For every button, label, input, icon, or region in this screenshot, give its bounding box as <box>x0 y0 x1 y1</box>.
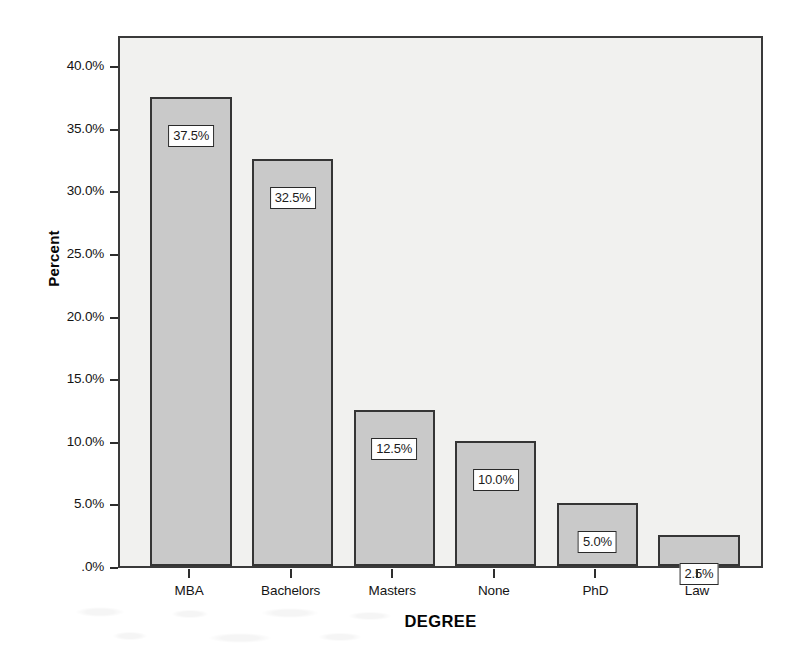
bar: 10.0% <box>455 441 536 566</box>
y-tick-label: 25.0% <box>0 246 104 261</box>
x-tick-mark <box>696 569 698 578</box>
y-tick-mark <box>110 66 118 68</box>
bar-value-label: 12.5% <box>371 438 417 460</box>
y-tick-mark <box>110 442 118 444</box>
bar: 32.5% <box>252 159 333 566</box>
x-tick-label: Law <box>632 583 762 598</box>
x-tick-mark <box>290 569 292 578</box>
bar-chart: Percent 40.0%35.0%30.0%25.0%20.0%15.0%10… <box>0 0 806 652</box>
y-tick-mark <box>110 567 118 569</box>
bar: 12.5% <box>354 410 435 566</box>
y-tick-label: 5.0% <box>0 496 104 511</box>
y-tick-mark <box>110 191 118 193</box>
bar: 37.5% <box>150 97 231 566</box>
y-tick-label: 40.0% <box>0 58 104 73</box>
y-tick-mark <box>110 254 118 256</box>
y-tick-label: 30.0% <box>0 183 104 198</box>
bars-layer: 37.5%32.5%12.5%10.0%5.0%2.5% <box>120 38 761 566</box>
y-tick-mark <box>110 317 118 319</box>
y-tick-label: 10.0% <box>0 434 104 449</box>
x-tick-mark <box>391 569 393 578</box>
plot-area: 37.5%32.5%12.5%10.0%5.0%2.5% <box>118 36 763 568</box>
bar-value-label: 5.0% <box>578 531 617 553</box>
y-tick-label: 15.0% <box>0 371 104 386</box>
bar-value-label: 37.5% <box>168 125 214 147</box>
bar-value-label: 2.5% <box>680 563 719 585</box>
x-tick-mark <box>594 569 596 578</box>
y-tick-mark <box>110 504 118 506</box>
bar: 5.0% <box>557 503 638 566</box>
x-axis-title: DEGREE <box>118 612 763 631</box>
y-tick-label: 35.0% <box>0 121 104 136</box>
y-tick-mark <box>110 129 118 131</box>
y-tick-label: .0% <box>0 559 104 574</box>
x-tick-mark <box>493 569 495 578</box>
x-tick-mark <box>188 569 190 578</box>
bar-value-label: 10.0% <box>473 469 519 491</box>
y-tick-label: 20.0% <box>0 309 104 324</box>
bar: 2.5% <box>658 535 739 566</box>
y-tick-mark <box>110 379 118 381</box>
bar-value-label: 32.5% <box>270 187 316 209</box>
